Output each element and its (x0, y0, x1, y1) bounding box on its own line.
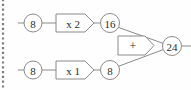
node-in-bottom-label: 8 (30, 65, 36, 77)
node-output-label: 24 (167, 41, 179, 53)
node-op-bottom-label: x 1 (66, 65, 80, 77)
diagram-canvas: 8 x 2 16 8 x 1 8 + 24 (0, 0, 191, 90)
node-op-sum-label: + (130, 39, 137, 53)
node-in-top-label: 8 (30, 18, 36, 30)
node-op-top-label: x 2 (66, 18, 80, 30)
node-mid-bottom-label: 8 (107, 65, 113, 77)
node-mid-top-label: 16 (105, 18, 117, 30)
flow-diagram: 8 x 2 16 8 x 1 8 + 24 (0, 0, 191, 90)
